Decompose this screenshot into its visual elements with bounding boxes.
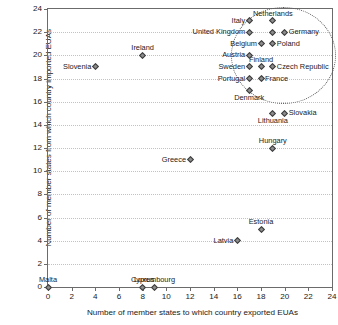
y-axis-tick-mark: [44, 55, 48, 56]
data-point[interactable]: [246, 17, 253, 24]
y-axis-tick-label: 4: [37, 237, 42, 245]
y-axis-tick-mark: [44, 102, 48, 103]
data-point[interactable]: [257, 75, 264, 82]
x-axis-title: Number of member states to which country…: [47, 308, 338, 317]
y-axis-tick-label: 12: [33, 144, 42, 152]
x-axis-tick-label: 20: [280, 293, 289, 301]
data-point[interactable]: [269, 17, 276, 24]
data-point[interactable]: [151, 283, 158, 290]
data-point[interactable]: [257, 63, 264, 70]
x-axis-tick-mark: [214, 287, 215, 291]
data-point[interactable]: [139, 283, 146, 290]
data-point-label: United Kingdom: [193, 28, 246, 35]
data-point-label: Poland: [277, 40, 300, 47]
data-point[interactable]: [186, 156, 193, 163]
x-axis-tick-mark: [285, 287, 286, 291]
x-axis-tick-label: 22: [304, 293, 313, 301]
gridline-horizontal: [48, 55, 332, 56]
data-point-label: Estonia: [249, 218, 274, 225]
data-point-label: Germany: [289, 28, 319, 35]
x-axis-tick-label: 2: [69, 293, 74, 301]
gridline-horizontal: [48, 79, 332, 80]
gridline-horizontal: [48, 194, 332, 195]
y-axis-tick-label: 0: [37, 283, 42, 291]
x-axis-tick-mark: [308, 287, 309, 291]
data-point-label: Belgium: [230, 40, 257, 47]
data-point[interactable]: [246, 29, 253, 36]
data-point-label: Czech Republic: [277, 63, 329, 70]
data-point[interactable]: [281, 29, 288, 36]
x-axis-tick-mark: [190, 287, 191, 291]
data-point-label: France: [265, 75, 288, 82]
x-axis-tick-label: 6: [117, 293, 122, 301]
data-point-label: Netherlands: [253, 9, 293, 16]
x-axis-tick-mark: [119, 287, 120, 291]
y-axis-tick-mark: [44, 125, 48, 126]
x-axis-tick-mark: [166, 287, 167, 291]
data-point[interactable]: [269, 63, 276, 70]
y-axis-tick-label: 22: [33, 28, 42, 36]
y-axis-tick-label: 16: [33, 98, 42, 106]
y-axis-tick-mark: [44, 241, 48, 242]
data-point[interactable]: [269, 144, 276, 151]
gridline-horizontal: [48, 148, 332, 149]
data-point-label: Lithuania: [258, 117, 288, 124]
y-axis-tick-label: 6: [37, 213, 42, 221]
x-axis-tick-label: 18: [256, 293, 265, 301]
gridline-horizontal: [48, 102, 332, 103]
x-axis-tick-label: 16: [233, 293, 242, 301]
gridline-horizontal: [48, 218, 332, 219]
data-point[interactable]: [257, 226, 264, 233]
data-point[interactable]: [269, 40, 276, 47]
gridline-horizontal: [48, 264, 332, 265]
data-point-label: Denmark: [234, 94, 264, 101]
data-point-label: Portugal: [218, 75, 246, 82]
y-axis-tick-label: 24: [33, 5, 42, 13]
data-point[interactable]: [269, 29, 276, 36]
y-axis-tick-label: 10: [33, 167, 42, 175]
y-axis-tick-mark: [44, 9, 48, 10]
x-axis-tick-mark: [95, 287, 96, 291]
y-axis-tick-label: 18: [33, 74, 42, 82]
plot-area: 0246810121416182022240246810121416182022…: [47, 8, 333, 288]
data-point[interactable]: [92, 63, 99, 70]
gridline-horizontal: [48, 125, 332, 126]
y-axis-tick-mark: [44, 32, 48, 33]
data-point-label: Luxembourg: [134, 276, 175, 283]
x-axis-tick-mark: [72, 287, 73, 291]
data-point[interactable]: [234, 237, 241, 244]
x-axis-tick-mark: [332, 287, 333, 291]
data-point[interactable]: [246, 63, 253, 70]
y-axis-tick-mark: [44, 264, 48, 265]
data-point[interactable]: [44, 283, 51, 290]
x-axis-tick-label: 12: [185, 293, 194, 301]
data-point[interactable]: [139, 52, 146, 59]
y-axis-tick-label: 20: [33, 51, 42, 59]
data-point-label: Malta: [39, 276, 57, 283]
y-axis-tick-label: 2: [37, 260, 42, 268]
x-axis-tick-mark: [237, 287, 238, 291]
gridline-horizontal: [48, 241, 332, 242]
x-axis-tick-label: 24: [327, 293, 336, 301]
y-axis-tick-mark: [44, 194, 48, 195]
data-point-label: Hungary: [259, 137, 287, 144]
y-axis-tick-mark: [44, 148, 48, 149]
x-axis-tick-label: 4: [93, 293, 98, 301]
x-axis-tick-label: 8: [140, 293, 145, 301]
y-axis-tick-mark: [44, 79, 48, 80]
data-point-label: Sweden: [218, 63, 245, 70]
data-point-label: Latvia: [214, 237, 234, 244]
data-point[interactable]: [257, 40, 264, 47]
data-point-label: Austria: [222, 52, 245, 59]
data-point-label: Slovenia: [63, 63, 91, 70]
data-point-label: Ireland: [131, 44, 154, 51]
data-point-label: Finland: [249, 56, 273, 63]
x-axis-tick-label: 14: [209, 293, 218, 301]
gridline-horizontal: [48, 171, 332, 172]
data-point-label: Italy: [232, 17, 246, 24]
scatter-chart-figure: Number of member states from which count…: [0, 0, 338, 325]
data-point-label: Greece: [162, 156, 186, 163]
x-axis-tick-mark: [261, 287, 262, 291]
data-point[interactable]: [246, 75, 253, 82]
y-axis-tick-label: 14: [33, 121, 42, 129]
